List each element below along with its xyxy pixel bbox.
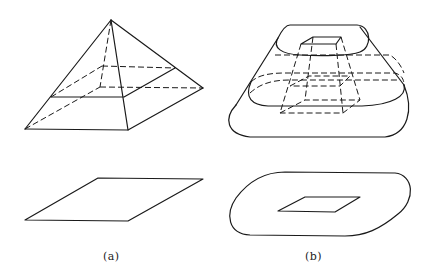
pyramid-a: [25, 20, 203, 130]
base-parallelogram-a: [25, 178, 203, 221]
caption-b: (b): [305, 250, 322, 263]
rounded-solid-b: [229, 25, 409, 137]
caption-a: (a): [103, 250, 120, 263]
base-outline-b: [230, 172, 411, 236]
figure-canvas: [0, 0, 433, 279]
